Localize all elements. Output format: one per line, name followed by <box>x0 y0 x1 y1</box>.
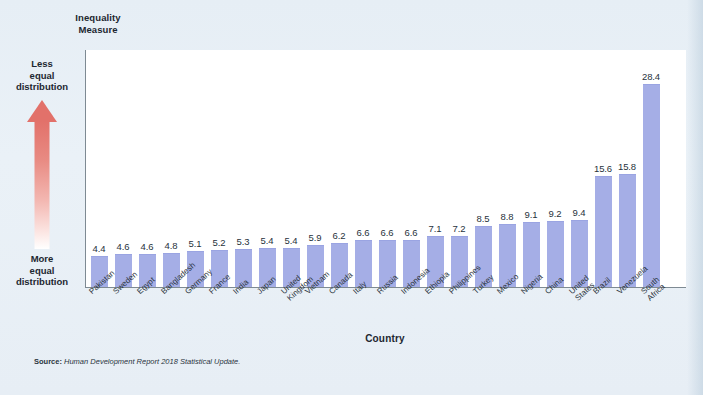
bar-value-label: 8.8 <box>501 211 514 222</box>
bar-value-label: 4.6 <box>117 241 130 252</box>
bar-value-label: 5.2 <box>213 237 226 248</box>
bar-value-label: 5.3 <box>237 236 250 247</box>
bar-slot: 6.6 <box>375 51 399 287</box>
bar-value-label: 4.4 <box>93 243 106 254</box>
bar-value-label: 7.1 <box>429 223 442 234</box>
bar-slot: 6.2 <box>327 51 351 287</box>
source-note: Source: Human Development Report 2018 St… <box>34 357 240 366</box>
bar-slot: 5.2 <box>207 51 231 287</box>
annotation-less-equal: Less equal distribution <box>4 58 80 93</box>
chart-figure: Inequality Measure Less equal distributi… <box>0 0 703 395</box>
up-arrow-head <box>27 100 57 122</box>
bar-value-label: 5.1 <box>189 238 202 249</box>
bar-value-label: 15.6 <box>594 163 612 174</box>
bar-slot: 7.1 <box>423 51 447 287</box>
annotation-more-equal-line3: distribution <box>4 276 80 288</box>
annotation-less-equal-line2: equal <box>4 70 80 82</box>
bar-value-label: 9.2 <box>549 208 562 219</box>
bar-slot: 7.2 <box>447 51 471 287</box>
annotation-more-equal-line2: equal <box>4 265 80 277</box>
bar-slot: 5.3 <box>231 51 255 287</box>
y-axis-title-line1: Inequality <box>52 12 144 24</box>
bar-value-label: 9.1 <box>525 209 538 220</box>
bar-slot: 6.6 <box>351 51 375 287</box>
bar[interactable] <box>619 174 636 287</box>
bar-slot: 5.4 <box>279 51 303 287</box>
bar-value-label: 5.9 <box>309 232 322 243</box>
bar-slot: 9.1 <box>519 51 543 287</box>
bar[interactable] <box>595 176 612 288</box>
bar-value-label: 8.5 <box>477 213 490 224</box>
source-text: Human Development Report 2018 Statistica… <box>64 357 240 366</box>
bar-slot: 15.8 <box>615 51 639 287</box>
up-arrow-stem <box>35 121 50 249</box>
annotation-less-equal-line3: distribution <box>4 81 80 93</box>
bar-slot: 4.6 <box>135 51 159 287</box>
bar-value-label: 15.8 <box>618 161 636 172</box>
annotation-more-equal-line1: More <box>4 253 80 265</box>
bar-value-label: 6.6 <box>405 227 418 238</box>
bar-value-label: 6.6 <box>381 227 394 238</box>
bar-value-label: 28.4 <box>642 71 660 82</box>
bar-slot: 5.1 <box>183 51 207 287</box>
bar-value-label: 9.4 <box>573 207 586 218</box>
bar-value-label: 6.6 <box>357 227 370 238</box>
bar-value-label: 5.4 <box>261 235 274 246</box>
bar-value-label: 4.6 <box>141 241 154 252</box>
bar-value-label: 6.2 <box>333 230 346 241</box>
bar-slot: 8.8 <box>495 51 519 287</box>
source-label: Source: <box>34 357 62 366</box>
bar-slot: 5.9 <box>303 51 327 287</box>
bar-slot: 15.6 <box>591 51 615 287</box>
bar-slot: 8.5 <box>471 51 495 287</box>
bar-value-label: 7.2 <box>453 223 466 234</box>
bar-slot: 6.6 <box>399 51 423 287</box>
y-axis-title: Inequality Measure <box>52 12 144 35</box>
bar-value-label: 4.8 <box>165 240 178 251</box>
bar-slot: 9.2 <box>543 51 567 287</box>
y-axis-title-line2: Measure <box>52 24 144 36</box>
bar-slot: 9.4 <box>567 51 591 287</box>
bar-slot: 5.4 <box>255 51 279 287</box>
plot-area: 4.44.64.64.85.15.25.35.45.45.96.26.66.66… <box>85 50 686 288</box>
bar-slot: 4.6 <box>111 51 135 287</box>
bar-slot: 4.8 <box>159 51 183 287</box>
bar-series: 4.44.64.64.85.15.25.35.45.45.96.26.66.66… <box>87 51 686 287</box>
bar-value-label: 5.4 <box>285 235 298 246</box>
up-arrow-icon <box>4 100 80 250</box>
annotation-more-equal: More equal distribution <box>4 253 80 288</box>
bar[interactable] <box>643 84 660 287</box>
annotation-less-equal-line1: Less <box>4 58 80 70</box>
bar-slot: 4.4 <box>87 51 111 287</box>
bar-slot: 28.4 <box>639 51 663 287</box>
x-axis-title: Country <box>85 333 685 344</box>
